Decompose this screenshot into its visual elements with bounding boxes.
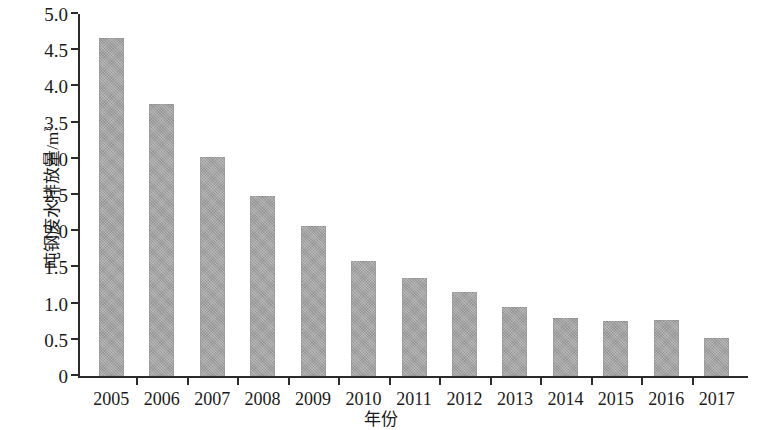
- y-axis-tick: [71, 374, 78, 376]
- y-axis-tick: [71, 338, 78, 340]
- y-axis-tick-label: 0: [59, 367, 69, 386]
- y-axis-tick: [71, 302, 78, 304]
- x-axis-tick: [237, 378, 239, 385]
- y-axis-tick-label: 3.5: [44, 113, 68, 132]
- y-axis-tick-label: 4.5: [44, 41, 68, 60]
- bar: [452, 292, 477, 376]
- y-axis-tick: [71, 157, 78, 159]
- x-axis-tick: [591, 378, 593, 385]
- y-axis-tick-label: 3.0: [44, 149, 68, 168]
- y-axis-tick: [71, 84, 78, 86]
- bar: [704, 338, 729, 376]
- x-axis-tick: [641, 378, 643, 385]
- y-axis-tick-label: 5.0: [44, 5, 68, 24]
- bar: [402, 278, 427, 376]
- y-axis-tick-label: 2.5: [44, 186, 68, 205]
- x-axis-tick: [288, 378, 290, 385]
- x-axis-tick: [490, 378, 492, 385]
- bar: [99, 38, 124, 376]
- x-axis-tick: [540, 378, 542, 385]
- y-axis-tick-label: 0.5: [44, 330, 68, 349]
- plot-area: 00.51.01.52.02.53.03.54.04.55.0 20052006…: [78, 14, 748, 378]
- y-axis-tick-label: 4.0: [44, 77, 68, 96]
- x-axis-title: 年份: [0, 405, 761, 430]
- bar: [603, 321, 628, 376]
- bar: [149, 104, 174, 376]
- x-axis-line: [78, 376, 748, 378]
- x-axis-tick: [187, 378, 189, 385]
- y-axis-tick-label: 2.0: [44, 222, 68, 241]
- x-axis-tick: [439, 378, 441, 385]
- bar: [351, 261, 376, 376]
- y-axis-tick: [71, 229, 78, 231]
- bar: [250, 196, 275, 376]
- x-axis-tick: [389, 378, 391, 385]
- x-axis-tick: [692, 378, 694, 385]
- bar-chart: 吨钢废水排放量/m3 00.51.01.52.02.53.03.54.04.55…: [0, 0, 761, 430]
- y-axis-tick: [71, 265, 78, 267]
- bar: [553, 318, 578, 376]
- y-axis-tick: [71, 12, 78, 14]
- bar: [654, 320, 679, 376]
- y-axis-tick-label: 1.5: [44, 258, 68, 277]
- y-axis-tick: [71, 121, 78, 123]
- bar: [200, 157, 225, 376]
- y-axis-tick: [71, 193, 78, 195]
- x-axis-tick: [136, 378, 138, 385]
- bar: [301, 226, 326, 376]
- bar: [502, 307, 527, 376]
- y-axis-tick: [71, 48, 78, 50]
- y-axis-line: [78, 14, 80, 378]
- x-axis-tick: [338, 378, 340, 385]
- y-axis-tick-label: 1.0: [44, 294, 68, 313]
